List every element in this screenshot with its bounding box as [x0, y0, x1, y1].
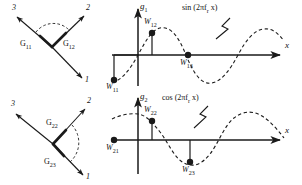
plot-cos-point-label-w23: W23 — [182, 166, 195, 176]
vector-axis-label-3: 3 — [11, 100, 15, 108]
plot-cos: g2 x cos (2πfr x) W21 W22 W23 — [104, 92, 302, 185]
plot-sin-canvas — [104, 0, 302, 92]
angle-leg-g23 — [53, 144, 64, 156]
angle-arc-2 — [70, 125, 79, 162]
plot-sin-curve-label-prefix: sin (2πf — [182, 3, 207, 12]
plot-sin-curve-label-suffix: x) — [209, 3, 218, 12]
plot-cos-point-label-w21-text: W — [106, 143, 113, 152]
plot-sin-y-axis-label: g1 — [140, 2, 148, 13]
plot-cos-point-label-w23-text: W — [182, 165, 189, 174]
plot-cos-point-label-w23-sub: 23 — [189, 170, 195, 176]
vector-diagram-2: 3 2 1 G22 G23 — [0, 92, 110, 185]
plot-cos-label-leader — [194, 106, 208, 128]
plot-sin: g1 x sin (2πfr x) W11 W12 W13 — [104, 0, 302, 92]
plot-cos-canvas — [104, 92, 302, 185]
vector-arrow-1 — [52, 47, 82, 78]
plot-cos-point-label-w22-sub: 22 — [151, 110, 157, 116]
plot-cos-curve-label: cos (2πfr x) — [162, 94, 199, 104]
plot-sin-point-w12 — [149, 30, 155, 36]
vector-axis-label-1: 1 — [86, 173, 90, 181]
plot-cos-point-label-w22: W22 — [144, 106, 157, 116]
plot-sin-point-label-w13-sub: 13 — [187, 63, 193, 69]
plot-sin-point-label-w13-text: W — [180, 58, 187, 67]
angle-label-g22-sub: 22 — [52, 123, 58, 129]
vector-diagram-1: 3 2 1 G11 G12 — [0, 0, 110, 92]
plot-cos-point-label-w22-text: W — [144, 105, 151, 114]
vector-diagram-1-canvas — [0, 0, 110, 92]
vector-axis-label-1: 1 — [85, 76, 89, 84]
angle-leg-g22 — [53, 130, 66, 144]
plot-sin-label-leader — [216, 18, 230, 39]
plot-cos-curve-label-prefix: cos (2πf — [162, 93, 188, 102]
angle-label-g11: G11 — [20, 40, 32, 50]
plot-cos-point-label-w21-sub: 21 — [113, 148, 119, 154]
angle-label-g22: G22 — [46, 119, 58, 129]
angle-arc-1 — [36, 23, 70, 32]
plot-cos-y-axis-label: g2 — [140, 92, 148, 103]
plot-sin-point-label-w12-text: W — [144, 17, 151, 26]
angle-label-g11-sub: 11 — [26, 44, 32, 50]
angle-label-g12-sub: 12 — [69, 44, 75, 50]
figure-root: 3 2 1 G11 G12 3 2 1 G22 G23 — [0, 0, 302, 185]
plot-sin-point-label-w11-text: W — [106, 82, 113, 91]
angle-label-g23-sub: 23 — [50, 162, 56, 168]
plot-sin-point-label-w13: W13 — [180, 59, 193, 69]
plot-sin-curve-label: sin (2πfr x) — [182, 4, 217, 14]
plot-cos-curve-label-suffix: x) — [190, 93, 199, 102]
plot-cos-x-axis-label: x — [285, 126, 289, 135]
plot-sin-x-axis-label: x — [285, 41, 289, 50]
angle-label-g23: G23 — [44, 158, 56, 168]
vector-axis-label-2: 2 — [86, 4, 90, 12]
plot-sin-point-label-w12: W12 — [144, 18, 157, 28]
vector-diagram-2-canvas — [0, 92, 110, 185]
plot-sin-point-label-w12-sub: 12 — [151, 22, 157, 28]
angle-leg-g11 — [40, 36, 52, 47]
vector-axis-label-3: 3 — [12, 4, 16, 12]
vector-axis-label-2: 2 — [87, 97, 91, 105]
plot-cos-y-axis-label-sub: 2 — [145, 97, 148, 103]
angle-label-g12: G12 — [63, 40, 75, 50]
plot-cos-point-label-w21: W21 — [106, 144, 119, 154]
plot-sin-y-axis-label-sub: 1 — [145, 7, 148, 13]
plot-cos-point-w22 — [149, 118, 155, 124]
